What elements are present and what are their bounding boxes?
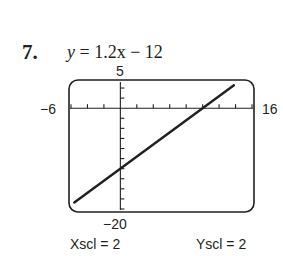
axes	[70, 82, 253, 210]
calculator-graph	[0, 0, 283, 256]
graph-frame	[69, 80, 254, 212]
plot-line	[74, 85, 234, 202]
